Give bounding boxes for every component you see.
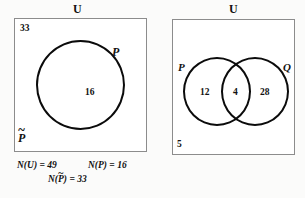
set-label-p-left: P	[112, 46, 119, 58]
venn-diagram-figure: U 33 P 16 ~ P N(U) = 49 N(P) = 16 N(~P) …	[0, 0, 305, 198]
tilde-accent-icon-caption: ~	[58, 168, 63, 178]
caption-n-p: N(P) = 16	[88, 160, 127, 170]
count-p-only: 12	[200, 88, 210, 98]
count-outside-p: 33	[20, 24, 30, 34]
set-label-q-right: Q	[283, 62, 291, 73]
set-circle-q-right	[221, 57, 289, 126]
count-q-only: 28	[260, 88, 270, 98]
tilde-accent-icon: ~	[18, 124, 25, 137]
caption-prefix: N(	[48, 174, 58, 184]
caption-n-universe: N(U) = 49	[17, 160, 57, 170]
set-label-p-right: P	[178, 62, 185, 73]
count-outside-right: 5	[177, 140, 182, 150]
set-label-p-complement: ~ P	[18, 132, 25, 144]
universe-label-right: U	[229, 3, 238, 15]
caption-n-p-complement: N(~P) = 33	[48, 174, 87, 184]
caption-suffix: ) = 33	[64, 174, 87, 184]
count-intersection: 4	[233, 88, 238, 98]
universe-label-left: U	[73, 3, 82, 15]
count-inside-p: 16	[85, 88, 95, 98]
